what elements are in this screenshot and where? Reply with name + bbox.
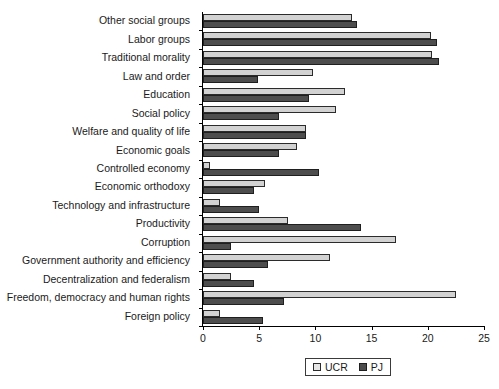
bar-pj	[203, 206, 259, 213]
category-label: Corruption	[0, 237, 190, 248]
bar-group	[203, 123, 484, 141]
legend-label: PJ	[371, 361, 383, 373]
bar-pj	[203, 113, 279, 120]
bar-pj	[203, 58, 439, 65]
x-axis-tick	[428, 326, 429, 330]
category-label: Education	[0, 89, 190, 100]
bar-group	[203, 197, 484, 215]
bar-pj	[203, 317, 263, 324]
bar-ucr	[203, 236, 396, 243]
category-label: Labor groups	[0, 34, 190, 45]
x-axis-tick-label: 15	[366, 332, 378, 344]
bar-group	[203, 160, 484, 178]
bar-pj	[203, 261, 268, 268]
x-axis-tick	[484, 326, 485, 330]
bar-ucr	[203, 254, 330, 261]
bar-group	[203, 289, 484, 307]
category-label: Foreign policy	[0, 311, 190, 322]
bar-pj	[203, 224, 361, 231]
light-gray-swatch	[313, 363, 321, 371]
bar-pj	[203, 132, 306, 139]
bar-group	[203, 178, 484, 196]
bar-ucr	[203, 143, 297, 150]
bar-pj	[203, 298, 284, 305]
category-label: Technology and infrastructure	[0, 200, 190, 211]
bar-pj	[203, 76, 258, 83]
bar-group	[203, 234, 484, 252]
bar-ucr	[203, 162, 210, 169]
bar-ucr	[203, 291, 456, 298]
x-axis-tick-label: 20	[422, 332, 434, 344]
bar-ucr	[203, 310, 220, 317]
category-label: Other social groups	[0, 15, 190, 26]
x-axis-tick-label: 5	[256, 332, 262, 344]
bar-ucr	[203, 217, 288, 224]
legend-label: UCR	[325, 361, 348, 373]
category-label: Social policy	[0, 108, 190, 119]
category-label: Decentralization and federalism	[0, 274, 190, 285]
bar-ucr	[203, 199, 220, 206]
bar-group	[203, 67, 484, 85]
bar-pj	[203, 169, 319, 176]
category-label: Productivity	[0, 218, 190, 229]
bar-pj	[203, 243, 231, 250]
category-label: Law and order	[0, 71, 190, 82]
x-axis-tick	[372, 326, 373, 330]
bar-ucr	[203, 51, 432, 58]
bar-group	[203, 86, 484, 104]
bar-pj	[203, 39, 437, 46]
horizontal-bar-chart: Other social groupsLabor groupsTradition…	[0, 0, 499, 389]
category-label: Freedom, democracy and human rights	[0, 292, 190, 303]
bar-pj	[203, 187, 254, 194]
category-label: Traditional morality	[0, 52, 190, 63]
bar-pj	[203, 280, 254, 287]
x-axis-tick	[259, 326, 260, 330]
category-label: Controlled economy	[0, 163, 190, 174]
x-axis-tick-label: 0	[200, 332, 206, 344]
category-axis-labels: Other social groupsLabor groupsTradition…	[0, 12, 196, 326]
plot-area: 0510152025	[202, 12, 484, 327]
bar-group	[203, 215, 484, 233]
legend-item-ucr: UCR	[313, 361, 348, 373]
bar-group	[203, 49, 484, 67]
bar-group	[203, 252, 484, 270]
bar-ucr	[203, 69, 313, 76]
bar-pj	[203, 150, 279, 157]
bar-ucr	[203, 88, 345, 95]
legend-item-pj: PJ	[359, 361, 383, 373]
bar-group	[203, 308, 484, 326]
bar-ucr	[203, 273, 231, 280]
bar-group	[203, 141, 484, 159]
bar-group	[203, 271, 484, 289]
category-label: Economic orthodoxy	[0, 181, 190, 192]
dark-gray-swatch	[359, 363, 367, 371]
bar-ucr	[203, 106, 336, 113]
x-axis-tick	[315, 326, 316, 330]
bar-ucr	[203, 32, 431, 39]
chart-legend: UCRPJ	[305, 358, 391, 376]
x-axis-tick-label: 10	[310, 332, 322, 344]
bar-pj	[203, 21, 357, 28]
bar-ucr	[203, 14, 352, 21]
bar-group	[203, 30, 484, 48]
x-axis-tick-label: 25	[478, 332, 490, 344]
bar-group	[203, 104, 484, 122]
category-label: Economic goals	[0, 145, 190, 156]
bar-pj	[203, 95, 309, 102]
bar-ucr	[203, 125, 306, 132]
category-label: Welfare and quality of life	[0, 126, 190, 137]
category-label: Government authority and efficiency	[0, 255, 190, 266]
x-axis-tick	[203, 326, 204, 330]
bar-group	[203, 12, 484, 30]
bar-ucr	[203, 180, 265, 187]
